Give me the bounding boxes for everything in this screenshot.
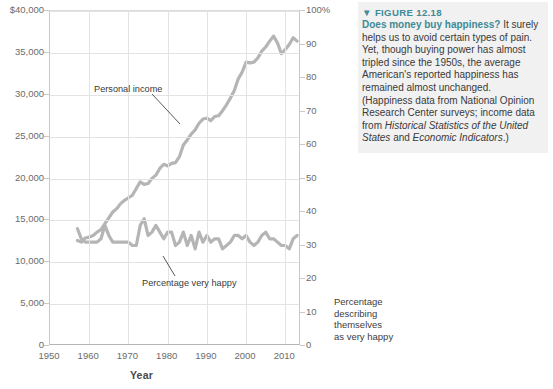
left-axis-tick-label: 5,000 [0,297,44,308]
left-axis-tick-mark [44,136,49,137]
x-axis-tick-label: 1980 [147,350,187,361]
right-axis-tick-mark [300,10,305,11]
gridline-vertical [89,11,90,344]
caption-mid: and [390,132,412,143]
gridline-horizontal [50,53,299,54]
right-axis-note: Percentage describing themselves as very… [334,296,414,342]
left-axis-tick-mark [44,219,49,220]
right-axis-note-line-3: themselves [334,319,414,331]
annotation-personal-income: Personal income [94,84,162,94]
left-axis-tick-mark [44,345,49,346]
left-axis-tick-mark [44,52,49,53]
right-axis-tick-label: 0 [306,339,311,350]
caption-lead: Does money buy happiness? [362,19,500,30]
right-axis-note-line-2: describing [334,308,414,320]
x-axis-title: Year [130,369,153,381]
right-axis-tick-mark [300,245,305,246]
right-axis-tick-mark [300,178,305,179]
right-axis-tick-mark [300,44,305,45]
right-axis-tick-mark [300,144,305,145]
x-axis-tick-label: 1950 [29,350,69,361]
gridline-vertical [128,11,129,344]
right-axis-tick-label: 40 [306,205,317,216]
series-line-personal-income [77,36,297,242]
right-axis-tick-label: 30 [306,239,317,250]
right-axis-tick-label: 50 [306,172,317,183]
left-axis-tick-label: 15,000 [0,213,44,224]
left-axis-tick-mark [44,303,49,304]
right-axis-tick-label: 90 [306,38,317,49]
x-axis-tick-label: 1960 [68,350,108,361]
caption-marker-icon: ▼ [362,7,372,18]
left-axis-tick-label: 35,000 [0,46,44,57]
right-axis-tick-label: 60 [306,138,317,149]
gridline-horizontal [50,304,299,305]
right-axis-tick-mark [300,345,305,346]
caption-rest: It surely helps us to avoid certain type… [362,19,538,143]
right-axis-tick-mark [300,312,305,313]
series-line-percentage-very-happy [77,219,297,249]
left-axis-tick-label: $40,000 [0,4,44,15]
right-axis-tick-mark [300,111,305,112]
x-axis-tick-label: 2000 [225,350,265,361]
right-axis-tick-label: 80 [306,71,317,82]
chart-panel: 05,00010,00015,00020,00025,00030,00035,0… [0,0,345,389]
figure-caption-header: ▼ FIGURE 12.18 [362,7,544,18]
figure-number: FIGURE 12.18 [375,7,442,18]
plot-area [49,10,300,345]
left-axis-tick-mark [44,10,49,11]
left-axis-tick-mark [44,178,49,179]
right-axis-note-line-4: as very happy [334,331,414,343]
x-axis-tick-label: 2010 [264,350,304,361]
gridline-horizontal [50,220,299,221]
right-axis-note-line-1: Percentage [334,296,414,308]
gridline-vertical [285,11,286,344]
left-axis-tick-label: 25,000 [0,130,44,141]
figure-caption-body: Does money buy happiness? It surely help… [362,19,544,145]
right-axis-tick-label: 10 [306,306,317,317]
left-axis-tick-label: 10,000 [0,255,44,266]
right-axis-tick-label: 100% [306,4,330,15]
gridline-vertical [207,11,208,344]
right-axis-tick-mark [300,278,305,279]
figure-12-18: 05,00010,00015,00020,00025,00030,00035,0… [0,0,553,389]
annotation-personal-income-leader [150,94,190,134]
left-axis-tick-label: 0 [0,339,44,350]
x-axis-tick-label: 1970 [107,350,147,361]
gridline-horizontal [50,11,299,12]
caption-body-text: It surely helps us to avoid certain type… [362,19,538,131]
right-axis-tick-label: 20 [306,272,317,283]
x-axis-tick-label: 1990 [186,350,226,361]
caption-tail: .) [503,132,509,143]
gridline-vertical [168,11,169,344]
gridline-horizontal [50,137,299,138]
left-axis-tick-label: 20,000 [0,172,44,183]
left-axis-tick-mark [44,261,49,262]
caption-italic-source-2: Economic Indicators [413,132,503,143]
gridline-horizontal [50,179,299,180]
right-axis-tick-mark [300,77,305,78]
left-axis-tick-label: 30,000 [0,88,44,99]
figure-caption: ▼ FIGURE 12.18 Does money buy happiness?… [358,2,548,153]
left-axis-tick-mark [44,94,49,95]
right-axis-tick-label: 70 [306,105,317,116]
gridline-vertical [246,11,247,344]
annotation-percentage-very-happy-leader [163,256,193,282]
right-axis-tick-mark [300,211,305,212]
